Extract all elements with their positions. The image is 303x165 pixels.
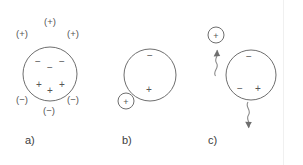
panel-a-external-charge: (+) bbox=[44, 17, 56, 27]
panel-a-external-charge: (+) bbox=[67, 29, 79, 39]
wavy-arrow-down-icon bbox=[245, 102, 252, 128]
physics-figure: (+) (+) (+) (−) (−) (−) − − − + + + a) −… bbox=[0, 0, 303, 165]
panel-a-internal-charge: − bbox=[35, 57, 41, 67]
panel-a-internal-charge: + bbox=[59, 80, 65, 90]
panel-c-internal-charge: − bbox=[237, 84, 243, 94]
panel-c-internal-charge: − bbox=[246, 52, 252, 62]
panel-a-internal-charge: − bbox=[47, 63, 53, 73]
panel-a-internal-charge: + bbox=[36, 80, 42, 90]
panel-b-internal-charge: + bbox=[146, 85, 152, 95]
panel-a-external-charge: (+) bbox=[16, 29, 28, 39]
panel-a-internal-charge: + bbox=[47, 86, 53, 96]
panel-a-external-charge: (−) bbox=[43, 106, 55, 116]
panel-a-internal-charge: − bbox=[59, 57, 65, 67]
panel-b-internal-charge: − bbox=[147, 51, 153, 61]
panel-label-b: b) bbox=[122, 135, 132, 146]
wavy-arrow-up-icon bbox=[214, 50, 221, 76]
panel-a-external-charge: (−) bbox=[67, 95, 79, 105]
panel-a-external-charge: (−) bbox=[16, 95, 28, 105]
panel-label-c: c) bbox=[208, 135, 217, 146]
panel-c-satellite-charge-label: + bbox=[213, 32, 218, 41]
panel-b-satellite-charge-label: + bbox=[123, 98, 128, 107]
panel-c-internal-charge: + bbox=[255, 84, 261, 94]
panel-label-a: a) bbox=[25, 135, 35, 146]
